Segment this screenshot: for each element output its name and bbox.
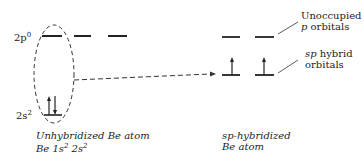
2p-level-label: 2p0 bbox=[14, 30, 31, 43]
unoccupied-p-label: Unoccupied p orbitals bbox=[301, 10, 361, 32]
2s-level-label: 2s2 bbox=[16, 108, 32, 121]
sp-electron-1-head bbox=[230, 57, 234, 62]
unhybridized-caption: Unhybridized Be atom Be 1s2 2s2 bbox=[36, 130, 150, 154]
spin-up-arrowhead bbox=[47, 96, 51, 101]
sp-electron-2-head bbox=[262, 57, 266, 62]
grouping-ellipse bbox=[34, 25, 74, 123]
hybrid-leader bbox=[278, 60, 298, 73]
connector-arrowhead bbox=[210, 72, 216, 77]
unoccupied-leader bbox=[278, 22, 298, 34]
sp-hybrid-label: sp hybrid orbitals bbox=[305, 48, 353, 70]
hybridized-caption: sp-hybridized Be atom bbox=[222, 130, 291, 152]
hybridization-connector bbox=[74, 74, 210, 80]
